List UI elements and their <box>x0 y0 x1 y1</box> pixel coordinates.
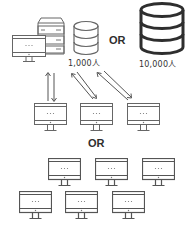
client-monitor-icon <box>95 158 128 188</box>
client-monitor-icon <box>80 103 113 133</box>
client-monitor-icon <box>48 158 81 188</box>
or-label-middle: OR <box>88 137 105 149</box>
client-monitor-icon <box>19 191 52 221</box>
client-monitor-icon <box>127 103 160 133</box>
client-monitor-icon <box>142 158 175 188</box>
client-monitor-icon <box>65 191 98 221</box>
client-monitor-icon <box>34 103 67 133</box>
client-monitor-icon <box>112 191 145 221</box>
